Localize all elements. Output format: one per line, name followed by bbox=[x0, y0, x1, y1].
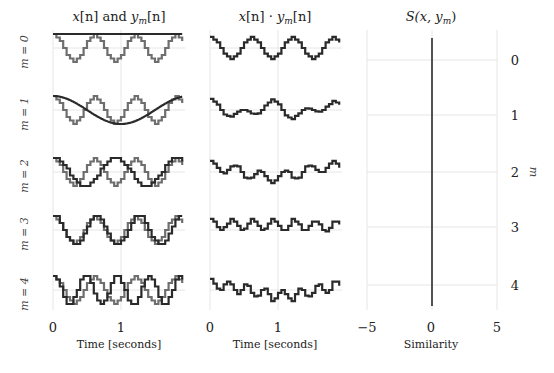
row-label-m1: m = 1 bbox=[18, 97, 31, 131]
row-label-m2: m = 2 bbox=[18, 159, 31, 193]
row-label-m0: m = 0 bbox=[18, 35, 31, 69]
product-signal-m1 bbox=[210, 99, 339, 119]
signals-title: x[n] and ym[n] bbox=[72, 9, 165, 26]
signals-xtick-1: 1 bbox=[117, 320, 125, 335]
signals-xtick-0: 0 bbox=[49, 320, 57, 335]
products-xtick-1: 1 bbox=[274, 320, 282, 335]
similarity-title: S(x, ym) bbox=[406, 9, 457, 26]
similarity-ytick-1: 1 bbox=[511, 108, 519, 123]
row-label-m4: m = 4 bbox=[18, 277, 31, 311]
signals-xlabel: Time [seconds] bbox=[77, 338, 162, 351]
similarity-xtick-5: 5 bbox=[493, 320, 501, 335]
similarity-xtick-neg5: −5 bbox=[357, 320, 376, 335]
products-xlabel: Time [seconds] bbox=[233, 338, 318, 351]
similarity-xtick-0: 0 bbox=[427, 320, 435, 335]
products-xtick-0: 0 bbox=[206, 320, 214, 335]
similarity-ytick-0: 0 bbox=[511, 53, 519, 68]
similarity-ytick-2: 2 bbox=[511, 165, 519, 180]
similarity-xlabel: Similarity bbox=[404, 338, 459, 351]
similarity-ytick-3: 3 bbox=[511, 220, 519, 235]
products-title: x[n] · ym[n] bbox=[239, 9, 312, 26]
figure: x[n] and ym[n] x[n] · ym[n] S(x, ym) m =… bbox=[0, 0, 554, 373]
similarity-ylabel: m bbox=[527, 167, 540, 177]
similarity-ytick-4: 4 bbox=[511, 278, 519, 293]
row-label-m3: m = 3 bbox=[18, 217, 31, 251]
